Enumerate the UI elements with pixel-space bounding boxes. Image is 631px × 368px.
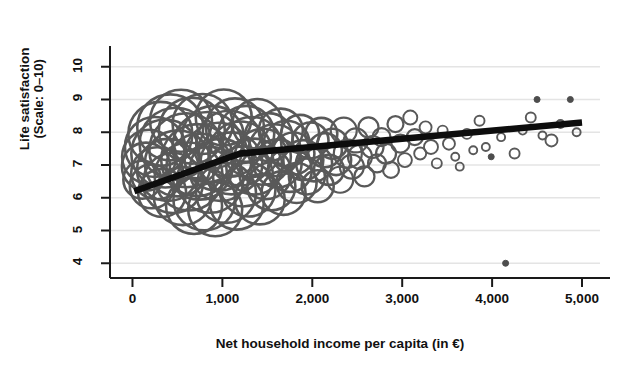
data-point-bubble — [488, 154, 494, 160]
y-tick-label: 9 — [70, 85, 85, 111]
y-tick-label: 10 — [70, 52, 85, 78]
scatter-plot-canvas — [0, 0, 631, 368]
x-tick-label: 2,000 — [272, 291, 352, 306]
x-tick-label: 1,000 — [182, 291, 262, 306]
y-tick-label: 7 — [70, 151, 85, 177]
y-tick-label: 4 — [70, 249, 85, 275]
data-point-bubble — [567, 96, 573, 102]
data-point-bubble — [503, 260, 509, 266]
x-axis-label: Net household income per capita (in €) — [60, 336, 620, 351]
y-tick-label: 6 — [70, 183, 85, 209]
y-axis-label: Life satisfaction (Scale: 0–10) — [17, 0, 47, 209]
x-tick-label: 0 — [92, 291, 172, 306]
y-axis-label-line1: Life satisfaction — [17, 47, 32, 150]
x-tick-label: 5,000 — [542, 291, 622, 306]
y-tick-label: 8 — [70, 118, 85, 144]
x-tick-label: 4,000 — [452, 291, 532, 306]
data-point-bubble — [534, 96, 540, 102]
chart-figure: Germany Life satisfaction (Scale: 0–10) … — [0, 0, 631, 368]
x-tick-label: 3,000 — [362, 291, 442, 306]
y-tick-label: 5 — [70, 216, 85, 242]
y-axis-label-line2: (Scale: 0–10) — [32, 0, 47, 209]
